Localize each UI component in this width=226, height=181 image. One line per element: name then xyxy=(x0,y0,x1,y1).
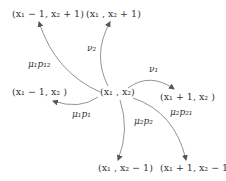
node-up: (x₁ , x₂ + 1) xyxy=(86,8,141,19)
edge-to-up-left xyxy=(39,22,100,92)
label-mu1-p12: μ₁p₁₂ xyxy=(28,59,50,70)
label-mu1-p1: μ₁p₁ xyxy=(72,109,91,120)
label-mu2-p21: μ₂p₂₁ xyxy=(170,107,192,118)
node-center: (x₁ , x₂) xyxy=(100,86,135,97)
node-left: (x₁ − 1, x₂ ) xyxy=(12,86,67,97)
edge-to-right xyxy=(128,80,174,89)
node-right: (x₁ + 1, x₂ ) xyxy=(160,91,215,102)
label-nu1: ν₁ xyxy=(149,64,158,75)
edge-to-down xyxy=(118,100,125,160)
node-down: (x₁ , x₂ − 1) xyxy=(98,162,153,173)
edge-to-up xyxy=(100,22,110,86)
node-down-right: (x₁ + 1, x₂ − 1) xyxy=(160,162,226,173)
label-mu2-p2: μ₂p₂ xyxy=(134,116,153,127)
edge-to-left xyxy=(53,97,98,105)
node-up-left: (x₁ − 1, x₂ + 1) xyxy=(12,8,84,19)
label-nu2: ν₂ xyxy=(87,43,96,54)
